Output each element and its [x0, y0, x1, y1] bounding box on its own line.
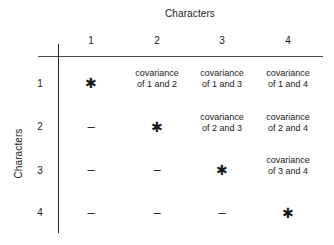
- row-header-4: 4: [28, 207, 52, 218]
- matrix-cell-2-3: covariance of 2 and 3: [189, 112, 255, 134]
- diagonal-asterisk-icon: ✱: [58, 72, 124, 94]
- matrix-cell-2-2: ✱: [124, 116, 190, 138]
- matrix-cell-3-2: –: [124, 159, 190, 181]
- matrix-cell-4-2: –: [124, 202, 190, 224]
- matrix-cell-2-4: covariance of 2 and 4: [255, 112, 321, 134]
- diagonal-asterisk-icon: ✱: [124, 116, 190, 138]
- cell-line-2: of 1 and 2: [124, 79, 190, 90]
- dash-icon: –: [58, 159, 124, 181]
- cell-line-2: of 2 and 3: [189, 123, 255, 134]
- column-header-1: 1: [58, 35, 124, 46]
- column-header-3: 3: [189, 35, 255, 46]
- dash-icon: –: [124, 202, 190, 224]
- matrix-cell-1-3: covariance of 1 and 3: [189, 68, 255, 90]
- cell-line-1: covariance: [255, 68, 321, 79]
- cell-line-1: covariance: [124, 68, 190, 79]
- matrix-cell-3-4: covariance of 3 and 4: [255, 155, 321, 177]
- cell-line-1: covariance: [189, 68, 255, 79]
- column-axis-title: Characters: [58, 8, 322, 19]
- matrix-cell-4-3: –: [189, 202, 255, 224]
- row-header-3: 3: [28, 165, 52, 176]
- covariance-matrix-figure: Characters Characters 1 2 3 4 1 2 3 4 ✱ …: [0, 0, 334, 245]
- matrix-cell-2-1: –: [58, 116, 124, 138]
- column-header-4: 4: [255, 35, 321, 46]
- dash-icon: –: [189, 202, 255, 224]
- matrix-cell-1-1: ✱: [58, 72, 124, 94]
- matrix-cell-1-2: covariance of 1 and 2: [124, 68, 190, 90]
- row-axis-title: Characters: [13, 114, 24, 194]
- dash-icon: –: [58, 116, 124, 138]
- matrix-cell-4-1: –: [58, 202, 124, 224]
- column-header-2: 2: [124, 35, 190, 46]
- cell-line-2: of 2 and 4: [255, 123, 321, 134]
- cell-line-2: of 1 and 3: [189, 79, 255, 90]
- matrix-cell-3-1: –: [58, 159, 124, 181]
- matrix-cell-1-4: covariance of 1 and 4: [255, 68, 321, 90]
- diagonal-asterisk-icon: ✱: [189, 159, 255, 181]
- matrix-cell-4-4: ✱: [255, 202, 321, 224]
- diagonal-asterisk-icon: ✱: [255, 202, 321, 224]
- row-header-2: 2: [28, 121, 52, 132]
- header-separator-rule: [38, 56, 323, 57]
- dash-icon: –: [124, 159, 190, 181]
- cell-line-1: covariance: [255, 112, 321, 123]
- cell-line-1: covariance: [255, 155, 321, 166]
- row-header-1: 1: [28, 78, 52, 89]
- cell-line-2: of 3 and 4: [255, 166, 321, 177]
- dash-icon: –: [58, 202, 124, 224]
- matrix-cell-3-3: ✱: [189, 159, 255, 181]
- cell-line-1: covariance: [189, 112, 255, 123]
- cell-line-2: of 1 and 4: [255, 79, 321, 90]
